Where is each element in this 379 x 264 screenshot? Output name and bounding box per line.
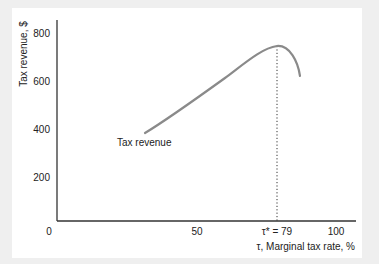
tax-revenue-curve	[145, 46, 300, 133]
x-tick-100: 100	[328, 226, 345, 237]
y-tick-600: 600	[33, 76, 50, 87]
curve-label: Tax revenue	[117, 137, 172, 148]
laffer-curve-chart: 800 600 400 200 0 50 τ* = 79 100 τ, Marg…	[0, 0, 379, 264]
origin-label: 0	[46, 226, 52, 237]
x-axis-title: τ, Marginal tax rate, %	[257, 241, 356, 252]
y-axis-title: Tax revenue, $	[18, 21, 29, 87]
x-tick-50: 50	[191, 226, 203, 237]
x-tick-tau-star: τ* = 79	[262, 226, 293, 237]
y-tick-800: 800	[33, 28, 50, 39]
y-tick-200: 200	[33, 172, 50, 183]
y-tick-400: 400	[33, 124, 50, 135]
